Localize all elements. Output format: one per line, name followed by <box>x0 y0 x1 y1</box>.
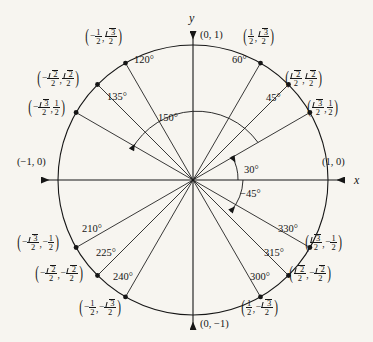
dot-150 <box>74 110 79 115</box>
coord-label-120: (−12,32) <box>84 28 123 46</box>
radius-60 <box>193 63 261 180</box>
angle-210-label: 210° <box>82 224 102 235</box>
y-axis-label: y <box>189 12 194 24</box>
coord-label-225: (−22,−22) <box>34 265 84 283</box>
dot-135 <box>95 82 100 87</box>
angle-120-label: 120° <box>134 55 154 66</box>
coord-label-45: (22,22) <box>284 70 323 88</box>
coord-label-330: (32,−12) <box>304 234 343 252</box>
point-0-1-label: (0, 1) <box>200 30 223 41</box>
dot-60 <box>258 61 263 66</box>
coord-label-150: (−32,12) <box>27 99 66 117</box>
coord-label-240: (−12,−32) <box>78 299 122 317</box>
arc-neg45-label: −45° <box>240 189 261 200</box>
unit-circle-graphic <box>0 0 373 342</box>
arc-30-path <box>232 157 238 181</box>
radius-240 <box>126 180 194 297</box>
angle-330-label: 330° <box>278 224 298 235</box>
radius-225 <box>98 180 194 276</box>
dot-210 <box>74 245 79 250</box>
radius-210 <box>76 180 193 248</box>
dot-225 <box>95 273 100 278</box>
coord-label-315: (22,−22) <box>288 265 332 283</box>
unit-circle-figure: y (0, 1) x (1, 0) (−1, 0) (0, −1) 30° −4… <box>0 0 373 342</box>
angle-240-label: 240° <box>113 272 133 283</box>
point-neg1-0-label: (−1, 0) <box>17 157 46 168</box>
point-1-0-label: (1, 0) <box>322 157 345 168</box>
coord-label-135: (−22,22) <box>36 70 80 88</box>
coord-label-30: (32,12) <box>306 99 339 117</box>
point-0-neg1-label: (0, −1) <box>200 319 229 330</box>
arc-150-label: 150° <box>158 113 178 124</box>
coord-label-210: (−32,−12) <box>16 234 60 252</box>
coord-label-60: (12,32) <box>242 28 275 46</box>
x-axis-label: x <box>354 174 359 186</box>
coord-label-300: (12,−32) <box>240 299 279 317</box>
angle-315-label: 315° <box>264 248 284 259</box>
angle-135-label: 135° <box>107 92 127 103</box>
dot-240 <box>123 295 128 300</box>
arc-30-label: 30° <box>244 165 259 176</box>
angle-45-label: 45° <box>266 93 281 104</box>
arc-150-path <box>132 111 259 150</box>
angle-225-label: 225° <box>96 248 116 259</box>
angle-60-label: 60° <box>232 55 247 66</box>
angle-300-label: 300° <box>250 272 270 283</box>
dot-120 <box>123 61 128 66</box>
